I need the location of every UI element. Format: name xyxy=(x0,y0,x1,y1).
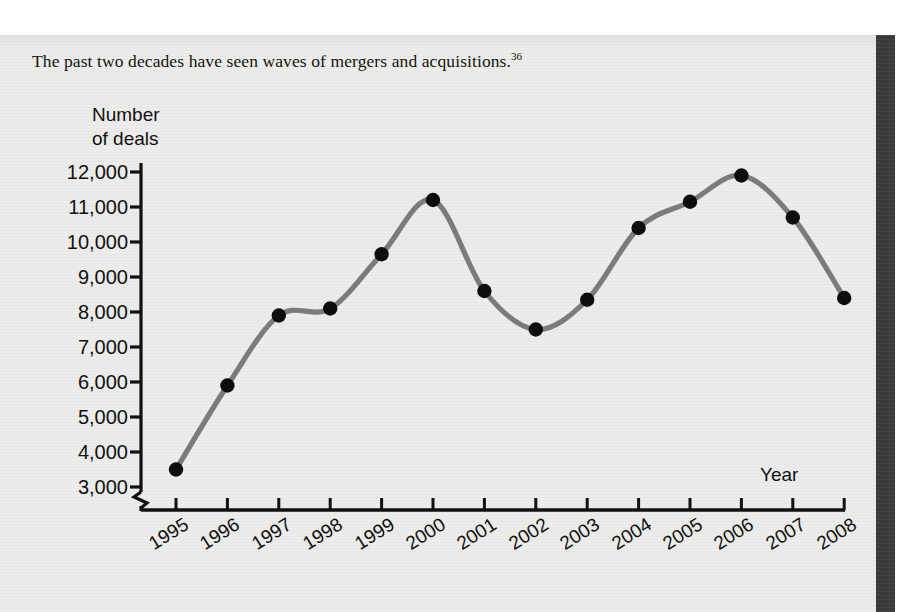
data-line-series xyxy=(176,175,844,469)
data-point-marker xyxy=(631,221,645,235)
data-point-marker xyxy=(169,462,183,476)
data-point-marker xyxy=(426,193,440,207)
plot-area xyxy=(0,0,912,612)
y-axis-break-glyph xyxy=(134,492,147,508)
data-point-marker xyxy=(477,284,491,298)
data-point-marker xyxy=(580,293,594,307)
line-chart: Number of deals Year 3,0004,0005,0006,00… xyxy=(0,0,912,612)
data-point-marker xyxy=(529,322,543,336)
data-point-marker xyxy=(374,247,388,261)
data-point-marker xyxy=(272,308,286,322)
data-point-marker xyxy=(220,378,234,392)
data-point-marker xyxy=(734,168,748,182)
data-point-marker xyxy=(786,210,800,224)
data-point-marker xyxy=(323,301,337,315)
data-point-marker xyxy=(683,195,697,209)
axis-ticks xyxy=(130,172,844,510)
data-point-marker xyxy=(837,291,851,305)
axes xyxy=(134,163,845,511)
